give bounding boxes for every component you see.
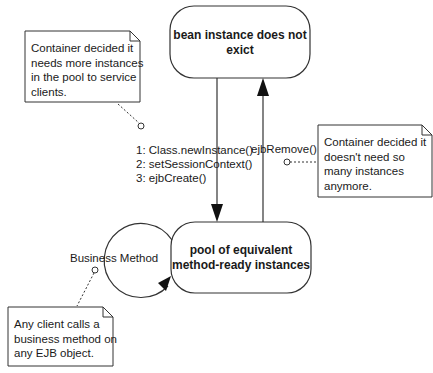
state-pool-label: pool of equivalent method-ready instance… — [171, 243, 311, 273]
note-business-anchor-icon — [92, 267, 98, 273]
note-business-connector — [77, 273, 94, 306]
note-line: anymore. — [324, 179, 426, 194]
create-step-2: 2: setSessionContext() — [136, 157, 252, 171]
create-step-1: 1: Class.newInstance() — [136, 143, 253, 157]
note-line: Any client calls a — [14, 317, 117, 332]
remove-label: ejbRemove() — [251, 142, 317, 156]
note-line: many instances — [324, 164, 426, 179]
state-does-not-exist-label: bean instance does not exict — [170, 28, 310, 58]
create-step-3: 3: ejbCreate() — [136, 171, 206, 185]
remove-arrowhead-icon — [257, 78, 269, 96]
state-label-line: method-ready instances — [171, 258, 311, 273]
note-line: any EJB object. — [14, 346, 117, 361]
state-label-line: pool of equivalent — [171, 243, 311, 258]
business-arrowhead-icon — [158, 276, 171, 291]
note-business-text: Any client calls a business method on an… — [14, 317, 117, 361]
state-label-line: bean instance does not — [170, 28, 310, 43]
state-label-line: exict — [170, 43, 310, 58]
note-line: doesn't need so — [324, 150, 426, 165]
note-line: clients. — [31, 85, 144, 100]
note-line: business method on — [14, 332, 117, 347]
note-create-text: Container decided it needs more instance… — [31, 41, 144, 99]
note-remove-text: Container decided it doesn't need so man… — [324, 135, 426, 193]
note-line: needs more instances — [31, 56, 144, 71]
note-line: Container decided it — [324, 135, 426, 150]
business-method-label: Business Method — [70, 251, 158, 265]
note-create-connector — [118, 104, 139, 123]
note-line: in the pool to service — [31, 70, 144, 85]
note-create-anchor-icon — [138, 123, 144, 129]
note-line: Container decided it — [31, 41, 144, 56]
note-remove-anchor-icon — [284, 159, 290, 165]
create-arrowhead-icon — [211, 204, 223, 222]
